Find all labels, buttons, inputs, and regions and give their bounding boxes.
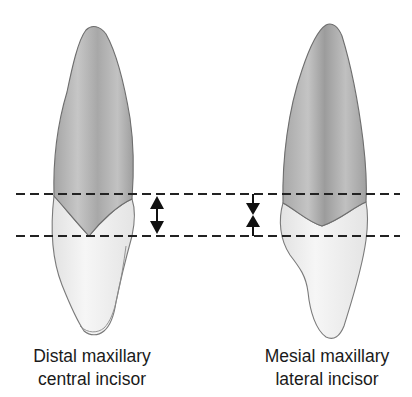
right-tooth-caption: Mesial maxillary lateral incisor xyxy=(227,345,412,391)
left-caption-line2: central incisor xyxy=(0,368,192,391)
double-headed-arrow-icon xyxy=(150,196,164,234)
right-caption-line1: Mesial maxillary xyxy=(227,345,412,368)
right-tooth-root xyxy=(283,24,366,226)
left-tooth-root xyxy=(54,27,133,236)
tooth-diagram xyxy=(0,0,412,397)
right-caption-line2: lateral incisor xyxy=(227,368,412,391)
left-tooth xyxy=(52,27,134,335)
right-tooth xyxy=(280,24,367,338)
left-caption-line1: Distal maxillary xyxy=(0,345,192,368)
left-tooth-caption: Distal maxillary central incisor xyxy=(0,345,192,391)
converging-arrows-icon xyxy=(246,194,260,236)
